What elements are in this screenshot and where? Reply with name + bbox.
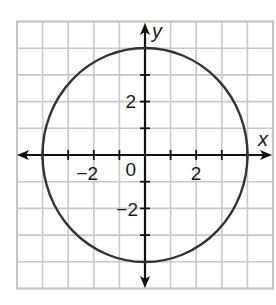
- y-tick-label-neg2: −2: [116, 199, 138, 220]
- x-tick-label-pos2: 2: [191, 163, 202, 184]
- x-axis-label: x: [257, 128, 269, 150]
- origin-label: 0: [125, 159, 136, 180]
- x-tick-label-neg2: −2: [76, 163, 98, 184]
- coordinate-plane: x y −2 0 2 2 −2: [0, 0, 276, 305]
- y-axis-label: y: [150, 20, 163, 42]
- y-tick-label-pos2: 2: [125, 91, 136, 112]
